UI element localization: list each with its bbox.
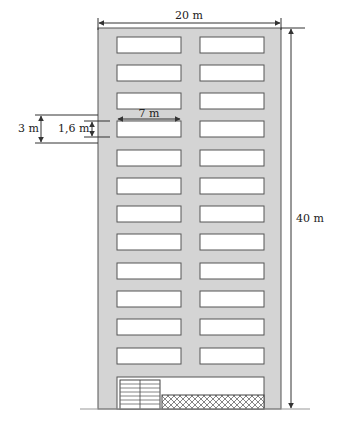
garage-door (120, 380, 160, 409)
building-diagram: 20 m 40 m 7 m 3 m 1,6 m (0, 0, 337, 423)
window-width-label: 7 m (139, 107, 160, 120)
height-label: 40 m (296, 212, 324, 225)
window-height-label: 1,6 m (58, 122, 90, 135)
floor-height-label: 3 m (18, 122, 39, 135)
hatched-panel (162, 395, 264, 409)
width-label: 20 m (175, 9, 203, 22)
